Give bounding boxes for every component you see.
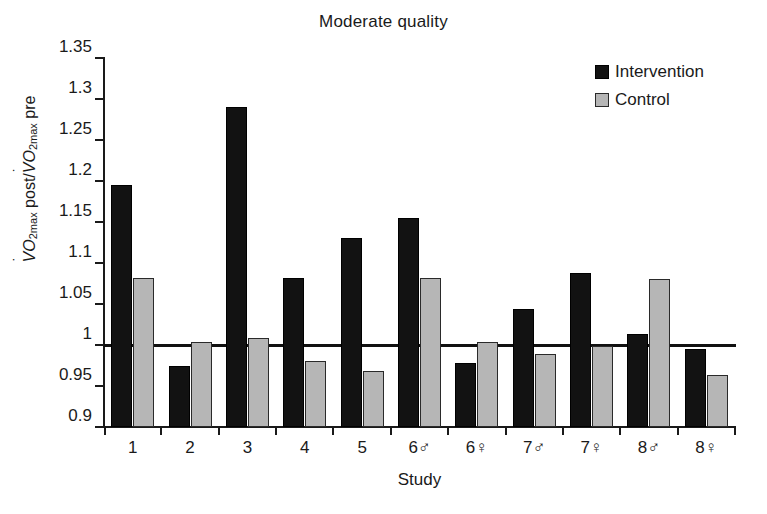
y-tick: [95, 57, 104, 59]
x-tick: [332, 427, 334, 435]
y-tick-label: 1.2: [30, 160, 92, 180]
x-tick-label: 6♀: [466, 438, 488, 458]
y-tick-label-group: 1.351.31.251.21.151.11.0510.950.9: [30, 0, 92, 514]
bar-intervention-4: [283, 278, 304, 427]
x-tick: [447, 427, 449, 435]
legend-item-control: Control: [595, 90, 765, 110]
bar-intervention-1: [111, 185, 132, 427]
x-tick-label: 4: [300, 438, 309, 458]
x-tick-label: 5: [357, 438, 366, 458]
bar-control-7: [477, 342, 498, 427]
y-tick-label: 1.35: [30, 37, 92, 57]
bar-intervention-9: [570, 273, 591, 427]
bar-control-8: [535, 354, 556, 427]
legend-label: Intervention: [615, 62, 704, 82]
bar-control-4: [305, 361, 326, 427]
bar-control-3: [248, 338, 269, 427]
bar-control-2: [191, 342, 212, 427]
y-tick-label: 0.95: [30, 365, 92, 385]
y-tick: [95, 139, 104, 141]
x-tick-label: 7♂: [523, 438, 545, 458]
legend-label: Control: [615, 90, 670, 110]
y-tick-label: 1.25: [30, 119, 92, 139]
y-tick: [95, 426, 104, 428]
chart-title: Moderate quality: [0, 12, 767, 32]
legend-swatch-icon: [595, 65, 609, 79]
y-tick-label: 1.15: [30, 201, 92, 221]
x-tick: [275, 427, 277, 435]
bar-control-10: [649, 279, 670, 427]
x-tick: [160, 427, 162, 435]
x-tick: [677, 427, 679, 435]
bar-intervention-3: [226, 107, 247, 427]
y-tick-label: 1.3: [30, 78, 92, 98]
x-tick: [734, 427, 736, 435]
y-tick-label: 0.9: [30, 406, 92, 426]
bar-intervention-10: [627, 334, 648, 427]
y-tick-label: 1: [30, 324, 92, 344]
x-tick: [104, 427, 106, 435]
x-tick-label: 6♂: [408, 438, 430, 458]
x-tick: [562, 427, 564, 435]
x-tick-label: 7♀: [580, 438, 602, 458]
x-tick: [218, 427, 220, 435]
bar-control-1: [133, 278, 154, 427]
y-tick: [95, 262, 104, 264]
chart-legend: InterventionControl: [595, 62, 765, 118]
bar-control-9: [592, 346, 613, 427]
y-tick: [95, 180, 104, 182]
bar-intervention-8: [513, 309, 534, 427]
bar-control-6: [420, 278, 441, 427]
y-tick: [95, 385, 104, 387]
bar-control-11: [707, 375, 728, 427]
x-tick-label: 8♂: [638, 438, 660, 458]
y-tick-label: 1.1: [30, 242, 92, 262]
y-tick: [95, 221, 104, 223]
bar-control-5: [363, 371, 384, 427]
bar-intervention-7: [455, 363, 476, 427]
x-tick: [390, 427, 392, 435]
x-axis-title: Study: [104, 470, 735, 490]
bar-intervention-5: [341, 238, 362, 427]
bar-intervention-2: [169, 366, 190, 428]
x-tick-label: 1: [128, 438, 137, 458]
legend-item-intervention: Intervention: [595, 62, 765, 82]
x-tick: [505, 427, 507, 435]
y-tick: [95, 98, 104, 100]
x-tick-label: 3: [243, 438, 252, 458]
bar-intervention-11: [685, 349, 706, 427]
legend-swatch-icon: [595, 93, 609, 107]
chart-figure: Moderate quality VO2max post/VO2max pre …: [0, 0, 767, 514]
x-tick: [619, 427, 621, 435]
x-tick-label: 2: [185, 438, 194, 458]
y-tick: [95, 344, 104, 346]
bar-intervention-6: [398, 218, 419, 427]
y-tick: [95, 303, 104, 305]
y-tick-label: 1.05: [30, 283, 92, 303]
x-tick-label: 8♀: [695, 438, 717, 458]
